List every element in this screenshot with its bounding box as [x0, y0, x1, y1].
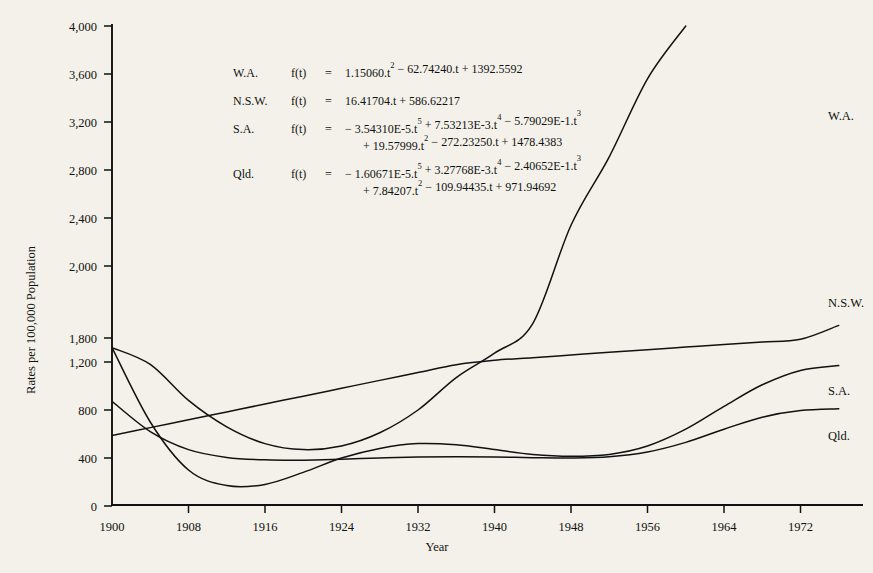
series-line-qld	[112, 401, 839, 460]
equation-series-name: Qld.	[233, 167, 254, 181]
equation-annotations: W.A.f(t)=1.15060.t2 − 62.74240.t + 1392.…	[233, 60, 581, 198]
equation-equals-sign: =	[325, 94, 332, 108]
chart-series-curves	[112, 26, 839, 487]
x-axis-tick-label: 1908	[176, 520, 201, 534]
chart-series-labels: W.A.N.S.W.S.A.Qld.	[828, 109, 864, 443]
x-axis-tick-label: 1940	[482, 520, 507, 534]
x-axis-tick-label: 1916	[253, 520, 278, 534]
y-axis-tick-label: 400	[78, 452, 97, 466]
equation-series-name: S.A.	[233, 122, 254, 136]
equation-equals-sign: =	[325, 66, 332, 80]
equation-expression-line: − 1.60671E-5.t5 + 3.27768E-3.t4 − 2.4065…	[345, 153, 581, 181]
y-axis-ticks	[104, 26, 112, 506]
y-axis-tick-label: 800	[78, 404, 97, 418]
equation-series-name: W.A.	[233, 66, 258, 80]
line-chart: 4,0003,6003,2002,8002,4002,0001,8001,200…	[0, 0, 873, 573]
x-axis-title: Year	[425, 540, 449, 554]
x-axis-tick-label: 1956	[635, 520, 660, 534]
series-line-sa	[112, 348, 839, 487]
y-axis-tick-label: 1,800	[69, 332, 97, 346]
x-axis-tick-label: 1932	[406, 520, 431, 534]
y-axis-tick-label: 2,000	[69, 260, 97, 274]
equation-expression-line: + 7.84207.t2 − 109.94435.t + 971.94692	[363, 178, 556, 198]
equation-function-label: f(t)	[291, 167, 306, 181]
y-axis-tick-label: 1,200	[69, 356, 97, 370]
series-label-sa: S.A.	[828, 384, 850, 398]
series-line-nsw	[112, 325, 839, 435]
equation-function-label: f(t)	[291, 66, 306, 80]
x-axis-tick-label: 1964	[712, 520, 738, 534]
x-axis-tick-label: 1948	[559, 520, 584, 534]
equation-function-label: f(t)	[291, 94, 306, 108]
equation-equals-sign: =	[325, 167, 332, 181]
series-label-nsw: N.S.W.	[828, 296, 864, 310]
x-axis-tick-label: 1924	[329, 520, 355, 534]
equation-function-label: f(t)	[291, 122, 306, 136]
chart-axes	[112, 25, 862, 505]
equation-expression-line: 1.15060.t2 − 62.74240.t + 1392.5592	[345, 60, 522, 80]
equation-expression-line: − 3.54310E-5.t5 + 7.53213E-3.t4 − 5.7902…	[345, 108, 581, 136]
y-axis-tick-label: 0	[91, 500, 97, 514]
x-axis-tick-label: 1900	[100, 520, 125, 534]
x-axis-tick-labels: 1900190819161924193219401948195619641972	[100, 520, 814, 534]
equation-equals-sign: =	[325, 122, 332, 136]
series-label-wa: W.A.	[828, 109, 854, 123]
equation-series-name: N.S.W.	[233, 94, 268, 108]
series-line-wa	[112, 26, 686, 450]
chart-figure: 4,0003,6003,2002,8002,4002,0001,8001,200…	[0, 0, 873, 573]
y-axis-title: Rates per 100,000 Population	[24, 245, 38, 394]
y-axis-tick-label: 3,600	[69, 68, 97, 82]
equation-expression-line: 16.41704.t + 586.62217	[345, 94, 460, 108]
series-label-qld: Qld.	[828, 429, 850, 443]
x-axis-ticks	[189, 505, 801, 513]
y-axis-tick-label: 4,000	[69, 20, 97, 34]
equation-expression-line: + 19.57999.t2 − 272.23250.t + 1478.4383	[363, 133, 562, 153]
y-axis-tick-label: 2,400	[69, 212, 97, 226]
x-axis-tick-label: 1972	[788, 520, 813, 534]
y-axis-tick-label: 3,200	[69, 116, 97, 130]
y-axis-tick-labels: 4,0003,6003,2002,8002,4002,0001,8001,200…	[69, 20, 97, 514]
y-axis-tick-label: 2,800	[69, 164, 97, 178]
